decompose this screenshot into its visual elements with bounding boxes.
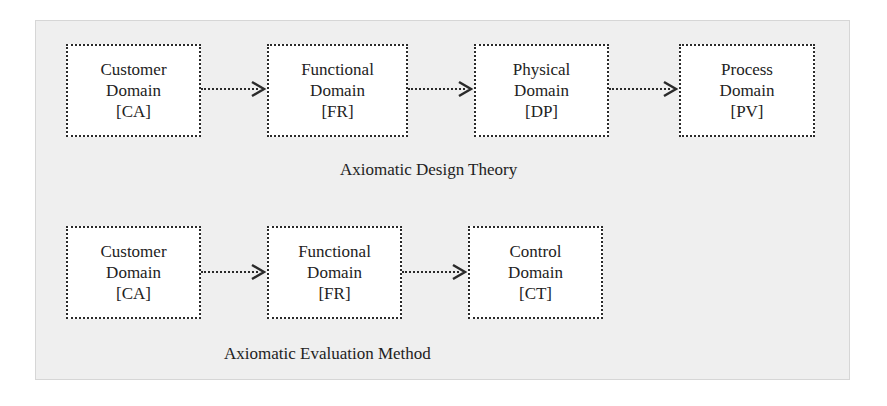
arrowhead-icon [662, 79, 678, 99]
box-control-domain: Control Domain [CT] [468, 226, 603, 319]
arrow-ca-to-fr-bottom [201, 262, 266, 282]
arrowhead-icon [250, 79, 266, 99]
box-label-line2: Domain [720, 80, 775, 101]
box-code: [CA] [116, 283, 151, 304]
box-customer-domain-top: Customer Domain [CA] [66, 44, 201, 137]
box-label-line2: Domain [310, 80, 365, 101]
box-functional-domain-bottom: Functional Domain [FR] [267, 226, 402, 319]
caption-axiomatic-evaluation-method: Axiomatic Evaluation Method [224, 344, 431, 364]
box-label-line2: Domain [508, 262, 563, 283]
box-label-line1: Functional [301, 59, 374, 80]
arrow-fr-to-ct [402, 262, 467, 282]
box-process-domain: Process Domain [PV] [679, 44, 815, 137]
box-label-line1: Customer [100, 241, 166, 262]
arrowhead-icon [250, 262, 266, 282]
box-label-line2: Domain [106, 262, 161, 283]
box-label-line1: Control [510, 241, 562, 262]
dotted-line [609, 88, 670, 90]
box-code: [CA] [116, 101, 151, 122]
arrow-dp-to-pv [609, 79, 678, 99]
box-label-line2: Domain [307, 262, 362, 283]
box-customer-domain-bottom: Customer Domain [CA] [66, 226, 201, 319]
box-code: [FR] [321, 101, 353, 122]
box-label-line1: Process [721, 59, 773, 80]
caption-axiomatic-design-theory: Axiomatic Design Theory [340, 160, 517, 180]
box-label-line1: Physical [513, 59, 571, 80]
box-label-line1: Functional [298, 241, 371, 262]
box-physical-domain: Physical Domain [DP] [474, 44, 609, 137]
box-code: [FR] [318, 283, 350, 304]
box-label-line2: Domain [514, 80, 569, 101]
arrow-fr-to-dp [408, 79, 473, 99]
box-code: [PV] [730, 101, 763, 122]
box-code: [DP] [525, 101, 558, 122]
arrow-ca-to-fr-top [201, 79, 266, 99]
box-code: [CT] [519, 283, 552, 304]
arrowhead-icon [457, 79, 473, 99]
box-functional-domain-top: Functional Domain [FR] [267, 44, 408, 137]
box-label-line1: Customer [100, 59, 166, 80]
box-label-line2: Domain [106, 80, 161, 101]
arrowhead-icon [451, 262, 467, 282]
